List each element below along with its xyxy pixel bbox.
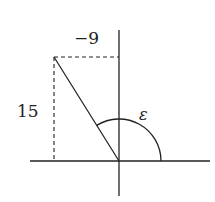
vector-line bbox=[54, 57, 119, 161]
x-component-label: −9 bbox=[74, 28, 99, 48]
vector-diagram: −9 15 ε bbox=[0, 0, 215, 202]
y-component-label: 15 bbox=[17, 101, 39, 121]
angle-label: ε bbox=[139, 105, 148, 124]
